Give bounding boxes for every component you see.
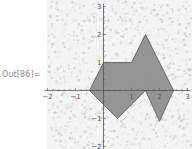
y-tick-label: 1 (97, 59, 101, 67)
y-tick-label: −1 (91, 115, 101, 123)
y-tick-label: 2 (97, 31, 101, 39)
x-tick-label: 2 (157, 93, 161, 101)
x-tick-label: −1 (70, 93, 80, 101)
x-tick-label: −2 (42, 93, 52, 101)
x-tick-label: 1 (129, 93, 133, 101)
polygon-plot[interactable]: −2−1123−2−1123 (0, 0, 192, 149)
y-tick-label: 3 (97, 3, 101, 11)
y-tick-label: −2 (91, 143, 101, 149)
x-tick-label: 3 (185, 93, 189, 101)
